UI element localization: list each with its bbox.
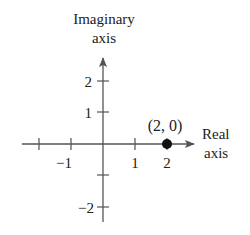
point-label: (2, 0) bbox=[148, 117, 183, 135]
imag-tick-label-2: 2 bbox=[85, 74, 93, 90]
real-axis-title-line1: Real bbox=[202, 126, 230, 142]
imag-tick-label-1: 1 bbox=[85, 105, 93, 121]
real-tick-label-2: 2 bbox=[163, 155, 171, 171]
imag-tick-label-neg2: −2 bbox=[78, 200, 94, 216]
imag-axis-title-line1: Imaginary bbox=[73, 11, 135, 27]
imag-axis-title-line2: axis bbox=[92, 30, 116, 46]
complex-plane-diagram: −1 1 2 2 1 −2 Imaginary axis Real axis (… bbox=[0, 0, 250, 235]
real-tick-label-neg1: −1 bbox=[56, 155, 72, 171]
real-axis-title-line2: axis bbox=[204, 145, 228, 161]
real-tick-label-1: 1 bbox=[131, 155, 139, 171]
point-marker bbox=[162, 139, 172, 149]
plot-svg: −1 1 2 2 1 −2 Imaginary axis Real axis (… bbox=[0, 0, 250, 235]
